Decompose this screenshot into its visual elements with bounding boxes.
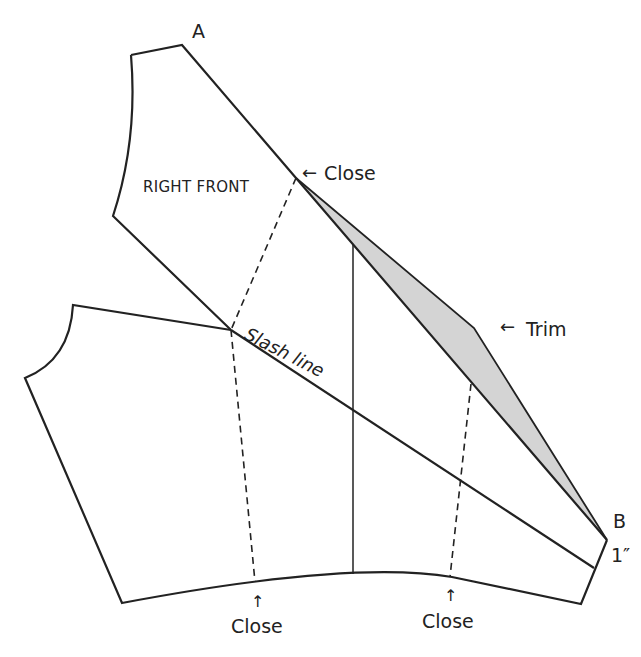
pattern-diagram: A RIGHT FRONT ← Close ← Trim Slash line … xyxy=(0,0,641,657)
close-top-label: Close xyxy=(324,164,376,183)
dashed-close-line-right xyxy=(450,384,471,577)
left-arrow-icon: ← xyxy=(302,164,317,182)
dashed-close-line-left xyxy=(231,330,255,582)
right-front-label: RIGHT FRONT xyxy=(143,180,249,195)
trim-label: Trim xyxy=(526,320,566,339)
close-bottom-left-label: Close xyxy=(231,617,283,636)
dashed-close-line-top xyxy=(231,178,296,330)
point-b-label: B xyxy=(613,512,626,531)
one-inch-label: 1″ xyxy=(611,546,630,565)
right-front-outline xyxy=(113,45,607,540)
close-bottom-right-label: Close xyxy=(422,612,474,631)
lower-piece-outline xyxy=(25,305,607,604)
up-arrow-icon: ↑ xyxy=(444,588,457,604)
left-arrow-icon: ← xyxy=(500,318,515,336)
up-arrow-icon: ↑ xyxy=(251,594,264,610)
point-a-label: A xyxy=(192,22,205,41)
